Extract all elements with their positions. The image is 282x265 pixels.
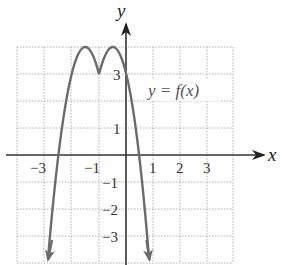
function-label: y = f(x) bbox=[146, 81, 199, 100]
y-tick-label: 3 bbox=[113, 67, 121, 83]
curve-arrow-right-icon bbox=[147, 240, 150, 260]
x-tick-label: −1 bbox=[84, 160, 100, 176]
y-tick-label: 1 bbox=[113, 121, 121, 137]
y-tick-label: −3 bbox=[102, 229, 118, 245]
y-tick-label: −2 bbox=[102, 202, 118, 218]
x-tick-label: 1 bbox=[149, 160, 157, 176]
function-graph: y x −3 −1 1 2 3 3 1 −1 −2 −3 y = f(x) bbox=[0, 0, 282, 265]
y-tick-label: −1 bbox=[102, 175, 118, 191]
x-axis-label: x bbox=[267, 144, 277, 165]
x-tick-label: 2 bbox=[176, 160, 184, 176]
x-tick-label: −3 bbox=[30, 160, 46, 176]
x-tick-label: 3 bbox=[203, 160, 211, 176]
y-axis-label: y bbox=[115, 0, 126, 21]
